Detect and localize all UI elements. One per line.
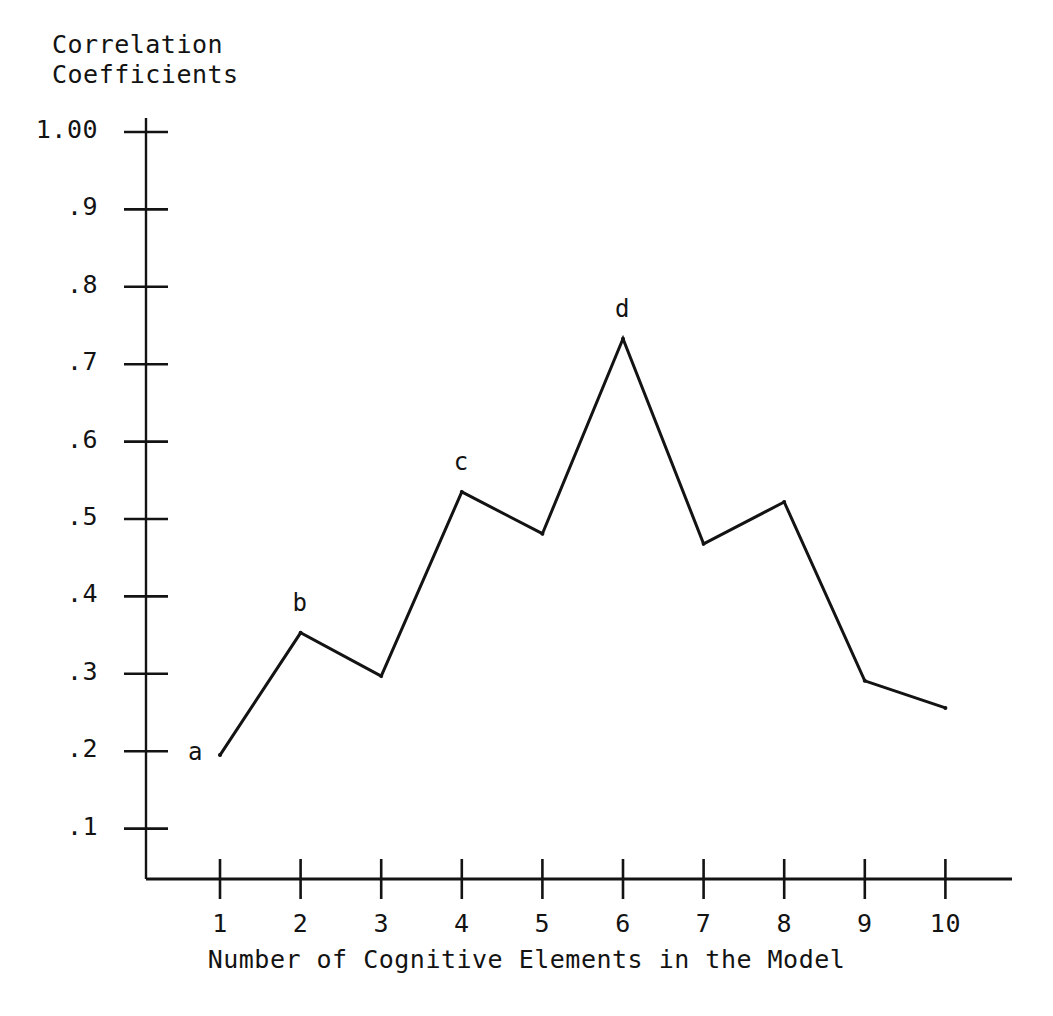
y-axis-tick-label: .7	[0, 347, 98, 376]
data-point-label-b: b	[293, 589, 307, 617]
data-point-label-d: d	[615, 295, 629, 323]
y-axis-tick-label: 1.00	[0, 115, 98, 144]
data-point	[621, 337, 625, 341]
y-axis-tick-label: .1	[0, 812, 98, 841]
x-axis-tick-label: 7	[674, 909, 734, 938]
y-axis-tick-label: .4	[0, 579, 98, 608]
data-series-line	[220, 339, 945, 755]
data-point	[702, 542, 706, 546]
y-axis-tick-label: .8	[0, 270, 98, 299]
x-axis-tick-label: 2	[271, 909, 331, 938]
y-axis-tick-label: .2	[0, 734, 98, 763]
data-point	[943, 706, 947, 710]
x-axis-tick-label: 5	[512, 909, 572, 938]
data-point	[299, 631, 303, 635]
data-point	[218, 753, 222, 757]
x-axis-tick-label: 10	[915, 909, 975, 938]
y-axis-tick-label: .6	[0, 425, 98, 454]
data-point	[782, 500, 786, 504]
x-axis-tick-label: 9	[835, 909, 895, 938]
x-axis-tick-label: 6	[593, 909, 653, 938]
data-point-label-a: a	[188, 738, 202, 766]
y-axis-tick-label: .3	[0, 657, 98, 686]
y-axis-tick-label: .9	[0, 192, 98, 221]
figure: CorrelationCoefficients 1.00.9.8.7.6.5.4…	[0, 0, 1053, 1016]
chart-page: CorrelationCoefficients 1.00.9.8.7.6.5.4…	[0, 0, 1053, 1016]
data-point	[863, 679, 867, 683]
x-axis-tick-label: 8	[754, 909, 814, 938]
data-point-label-c: c	[454, 448, 468, 476]
x-axis-tick-label: 4	[432, 909, 492, 938]
x-axis-title: Number of Cognitive Elements in the Mode…	[0, 945, 1053, 974]
y-axis-tick-label: .5	[0, 502, 98, 531]
x-axis-tick-label: 1	[190, 909, 250, 938]
data-point	[540, 532, 544, 536]
x-axis-tick-label: 3	[351, 909, 411, 938]
plot-area	[0, 0, 1053, 1016]
data-point	[379, 674, 383, 678]
data-point	[460, 490, 464, 494]
